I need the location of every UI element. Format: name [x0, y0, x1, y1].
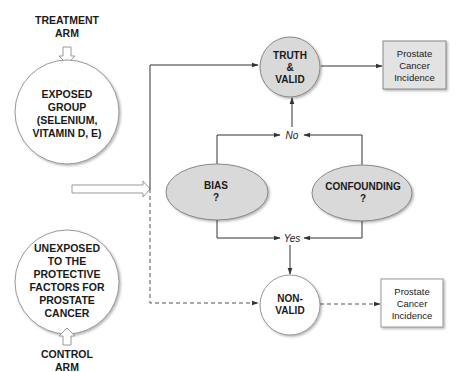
confounding-to-yes-connector	[304, 221, 362, 238]
outcome-nonvalid-line: Prostate	[394, 286, 429, 297]
unexposed-group-node: UNEXPOSED TO THE PROTECTIVE FACTORS FOR …	[15, 230, 119, 334]
control-arm-label: CONTROL ARM	[41, 348, 93, 372]
bias-to-yes-connector	[217, 220, 280, 238]
non-valid-node: NON- VALID	[260, 275, 320, 335]
nonvalid-line: VALID	[275, 305, 304, 316]
treatment-arm-label: TREATMENT ARM	[35, 14, 100, 39]
no-label: No	[286, 130, 299, 141]
hollow-right-arrow-icon	[72, 181, 150, 197]
unexposed-line: CANCER	[45, 307, 90, 319]
outcome-box-valid: Prostate Cancer Incidence	[383, 41, 446, 89]
bias-to-no-connector	[217, 135, 280, 164]
treatment-arm-line1: TREATMENT	[35, 14, 100, 26]
unexposed-line: TO THE	[48, 255, 86, 267]
outcome-valid-line: Cancer	[399, 60, 430, 71]
confounding-line: ?	[360, 193, 366, 204]
bias-line: ?	[213, 192, 219, 203]
flow-diagram: TREATMENT ARM EXPOSED GROUP (SELENIUM, V…	[0, 0, 460, 372]
unexposed-line: UNEXPOSED	[34, 242, 100, 254]
confounding-to-no-connector	[304, 135, 362, 165]
truth-line: &	[286, 62, 293, 73]
outcome-nonvalid-line: Cancer	[397, 298, 428, 309]
bias-line: BIAS	[204, 180, 228, 191]
outcome-nonvalid-line: Incidence	[392, 310, 433, 321]
truth-valid-node: TRUTH & VALID	[260, 37, 320, 97]
control-arm-line2: ARM	[55, 361, 79, 372]
confounding-node: CONFOUNDING ?	[312, 165, 412, 221]
treatment-arm-line2: ARM	[55, 27, 79, 39]
yes-label: Yes	[284, 233, 301, 244]
outcome-valid-line: Incidence	[394, 72, 435, 83]
exposed-group-node: EXPOSED GROUP (SELENIUM, VITAMIN D, E)	[15, 60, 119, 164]
unexposed-line: PROTECTIVE	[33, 268, 100, 280]
control-arm-line1: CONTROL	[41, 348, 93, 360]
truth-line: VALID	[275, 74, 304, 85]
exposed-line: GROUP	[48, 101, 87, 113]
exposed-line: VITAMIN D, E)	[32, 127, 101, 139]
nonvalid-line: NON-	[277, 293, 303, 304]
exposed-line: (SELENIUM,	[37, 114, 98, 126]
unexposed-line: FACTORS FOR	[29, 281, 104, 293]
bias-node: BIAS ?	[166, 164, 268, 220]
outcome-box-nonvalid: Prostate Cancer Incidence	[381, 279, 443, 327]
confounding-line: CONFOUNDING	[325, 181, 401, 192]
truth-line: TRUTH	[273, 50, 307, 61]
unexposed-line: PROSTATE	[39, 294, 95, 306]
exposed-line: EXPOSED	[42, 88, 93, 100]
outcome-valid-line: Prostate	[397, 48, 432, 59]
